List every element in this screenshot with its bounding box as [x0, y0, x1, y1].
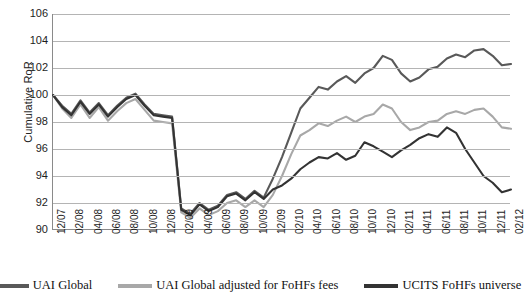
x-tick-label: 08/11 — [459, 194, 470, 234]
legend-label: UCITS FoHFs universe — [402, 278, 521, 293]
x-tick-label: 12/07 — [56, 194, 67, 234]
y-tick-label: 92 — [6, 196, 48, 208]
x-tick-label: 08/10 — [349, 194, 360, 234]
legend-color-swatch — [0, 284, 29, 288]
x-tick-label: 10/10 — [367, 194, 378, 234]
gridline — [53, 95, 510, 96]
x-tick-label: 12/10 — [386, 194, 397, 234]
gridline — [53, 68, 510, 69]
x-tick-label: 02/09 — [184, 194, 195, 234]
x-tick-label: 08/09 — [239, 194, 250, 234]
x-tick-label: 10/08 — [148, 194, 159, 234]
y-tick-label: 106 — [6, 7, 48, 19]
legend-item[interactable]: UCITS FoHFs universe — [364, 278, 521, 293]
x-tick-label: 06/08 — [111, 194, 122, 234]
x-tick-label: 02/12 — [514, 194, 525, 234]
x-tick-label: 12/11 — [496, 194, 507, 234]
x-tick-label: 10/09 — [258, 194, 269, 234]
gridline — [53, 41, 510, 42]
x-tick-label: 12/08 — [166, 194, 177, 234]
x-tick-label: 06/11 — [441, 194, 452, 234]
x-tick-label: 04/11 — [422, 194, 433, 234]
gridline — [53, 149, 510, 150]
x-tick-label: 04/09 — [203, 194, 214, 234]
x-tick-label: 12/09 — [276, 194, 287, 234]
legend-color-swatch — [364, 284, 398, 288]
x-tick-label: 06/10 — [331, 194, 342, 234]
gridline — [53, 14, 510, 15]
x-tick-label: 02/08 — [74, 194, 85, 234]
x-tick-label: 04/10 — [312, 194, 323, 234]
x-tick-label: 04/08 — [93, 194, 104, 234]
x-tick-label: 08/08 — [129, 194, 140, 234]
x-tick-label: 02/11 — [404, 194, 415, 234]
legend-item[interactable]: UAI Global adjusted for FoHFs fees — [118, 278, 338, 293]
legend-color-swatch — [118, 284, 152, 288]
chart-legend: UAI GlobalUAI Global adjusted for FoHFs … — [0, 278, 516, 293]
x-tick-label: 10/11 — [477, 194, 488, 234]
legend-label: UAI Global adjusted for FoHFs fees — [156, 278, 338, 293]
gridline — [53, 122, 510, 123]
x-tick-label: 02/10 — [294, 194, 305, 234]
legend-label: UAI Global — [33, 278, 92, 293]
legend-item[interactable]: UAI Global — [0, 278, 92, 293]
x-tick-label: 06/09 — [221, 194, 232, 234]
y-axis-title: Cumulative RoR — [22, 22, 34, 182]
y-tick-label: 90 — [6, 223, 48, 235]
gridline — [53, 176, 510, 177]
